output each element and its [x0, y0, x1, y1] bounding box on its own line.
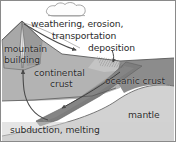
label-subduction: subduction, melting [10, 125, 100, 135]
label-oceanic-crust: oceanic crust [105, 76, 165, 86]
label-weathering: weathering, erosion, [31, 19, 123, 29]
label-continental: continental [34, 68, 85, 78]
diagram-canvas: weathering, erosion, transportation depo… [0, 0, 176, 142]
label-mantle: mantle [128, 110, 160, 120]
label-crust: crust [50, 79, 73, 89]
label-deposition: deposition [88, 43, 135, 53]
label-mountain: mountain [4, 44, 47, 54]
label-building: building [4, 55, 40, 65]
label-transportation: transportation [52, 31, 116, 41]
